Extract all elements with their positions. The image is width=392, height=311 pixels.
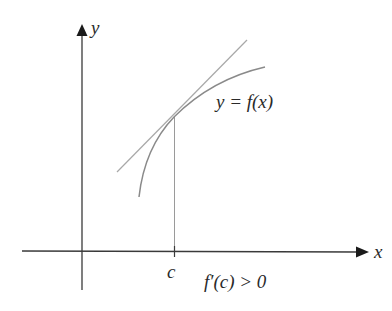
diagram-canvas: y x c y = f(x) f′(c) > 0 (0, 0, 392, 311)
point-c-label: c (167, 262, 175, 281)
x-axis-label: x (374, 242, 382, 261)
y-axis-arrow-icon (77, 24, 88, 36)
y-axis-label: y (91, 18, 99, 37)
x-axis (22, 251, 358, 252)
diagram-svg (0, 0, 392, 311)
curve-label: y = f(x) (216, 92, 273, 111)
x-axis-arrow-icon (356, 247, 369, 258)
condition-label: f′(c) > 0 (204, 272, 266, 291)
